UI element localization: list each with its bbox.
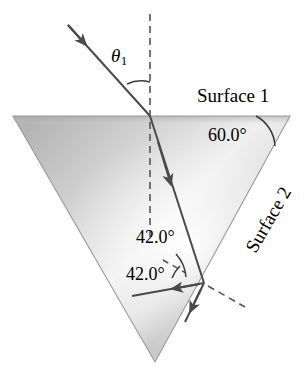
- surface-2-normal-dashed-outer: [208, 286, 245, 307]
- theta-subscript: 1: [121, 53, 128, 68]
- apex-angle-label: 60.0°: [208, 126, 247, 144]
- incidence-angle-label: 42.0°: [136, 228, 175, 246]
- theta1-label: θ1: [111, 46, 127, 67]
- incident-ray-arrow: [68, 25, 86, 45]
- theta-symbol: θ: [111, 45, 120, 66]
- theta1-angle-arc: [127, 81, 150, 84]
- surface-1-label: Surface 1: [197, 86, 269, 105]
- reflection-angle-label: 42.0°: [126, 265, 165, 283]
- diagram-canvas: [0, 0, 305, 375]
- physics-prism-diagram: θ1 Surface 1 Surface 2 60.0° 42.0° 42.0°: [0, 0, 305, 375]
